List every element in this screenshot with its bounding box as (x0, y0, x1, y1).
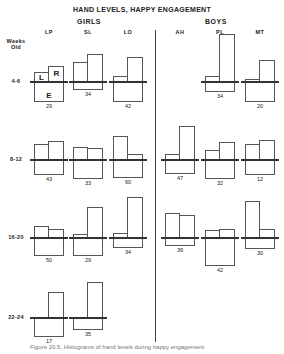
bar-below-baseline (34, 318, 64, 337)
bar-below-baseline (205, 160, 235, 179)
bar-left-hand (245, 144, 260, 160)
column-header-mt: MT (245, 29, 275, 35)
bar-left-hand (73, 147, 88, 160)
baseline (69, 159, 107, 160)
baseline (201, 81, 239, 82)
bar-below-baseline (165, 160, 195, 174)
baseline (241, 159, 279, 160)
bar-left-hand (73, 62, 88, 82)
bar-left-hand (34, 144, 49, 160)
bar-below-baseline (34, 160, 64, 175)
bar-below-baseline (245, 160, 275, 175)
legend-label-l: L (34, 73, 49, 82)
baseline (241, 81, 279, 82)
figure-caption: Figure 20.5. Histograms of hand levels d… (30, 344, 204, 350)
baseline (30, 81, 68, 82)
column-header-sl: SL (73, 29, 103, 35)
row-label-22-24: 22-24 (2, 314, 30, 320)
baseline (30, 159, 68, 160)
bar-left-hand (165, 213, 180, 238)
cell-count: 43 (34, 176, 64, 182)
cell-count: 29 (73, 257, 103, 263)
baseline (241, 237, 279, 238)
bar-below-baseline (245, 82, 275, 102)
bar-right-hand (219, 142, 235, 160)
baseline (161, 237, 199, 238)
bar-right-hand (87, 148, 103, 160)
column-header-lo: LO (113, 29, 143, 35)
plot-area: 29LRE34423420433360473212502934394230173… (0, 0, 284, 354)
baseline (201, 237, 239, 238)
baseline (109, 81, 147, 82)
cell-count: 50 (34, 257, 64, 263)
bar-right-hand (48, 292, 64, 318)
bar-below-baseline (113, 238, 143, 248)
cell-count: 29 (34, 103, 64, 109)
baseline (201, 159, 239, 160)
baseline (30, 317, 68, 318)
bar-right-hand (179, 215, 195, 238)
cell-count: 33 (73, 180, 103, 186)
cell-count: 12 (245, 176, 275, 182)
row-label-8-12: 8-12 (2, 156, 30, 162)
baseline (69, 81, 107, 82)
row-label-4-6: 4-6 (2, 78, 30, 84)
cell-count: 60 (113, 179, 143, 185)
baseline (69, 237, 107, 238)
bar-right-hand (127, 197, 143, 238)
baseline (69, 317, 107, 318)
bar-right-hand (219, 34, 235, 82)
bar-left-hand (113, 136, 128, 160)
bar-right-hand (259, 140, 275, 160)
bar-below-baseline (73, 160, 103, 179)
column-header-ah: AH (165, 29, 195, 35)
bar-below-baseline (113, 160, 143, 178)
bar-right-hand (87, 282, 103, 318)
baseline (109, 237, 147, 238)
bar-right-hand (87, 54, 103, 82)
cell-count: 42 (113, 103, 143, 109)
bar-right-hand (179, 126, 195, 160)
cell-count: 34 (113, 249, 143, 255)
bar-below-baseline (73, 318, 103, 330)
column-header-pl: PL (205, 29, 235, 35)
baseline (109, 159, 147, 160)
bar-below-baseline (205, 82, 235, 92)
bar-below-baseline (34, 238, 64, 256)
cell-count: 35 (73, 331, 103, 337)
cell-count: 32 (205, 180, 235, 186)
row-label-16-20: 16-20 (2, 234, 30, 240)
cell-count: 34 (205, 93, 235, 99)
bar-left-hand (245, 201, 260, 238)
legend-label-r: R (49, 69, 64, 78)
column-header-lp: LP (34, 29, 64, 35)
cell-count: 30 (245, 250, 275, 256)
baseline (30, 237, 68, 238)
cell-count: 39 (165, 247, 195, 253)
cell-count: 47 (165, 175, 195, 181)
bar-below-baseline (73, 82, 103, 90)
bar-below-baseline (113, 82, 143, 102)
cell-count: 34 (73, 91, 103, 97)
bar-right-hand (127, 57, 143, 82)
legend-label-e: E (34, 91, 64, 100)
baseline (161, 159, 199, 160)
bar-right-hand (259, 60, 275, 82)
cell-count: 42 (205, 267, 235, 273)
bar-right-hand (87, 207, 103, 238)
bar-below-baseline (165, 238, 195, 246)
cell-count: 20 (245, 103, 275, 109)
bar-below-baseline (73, 238, 103, 256)
bar-below-baseline (245, 238, 275, 249)
bar-below-baseline (205, 238, 235, 266)
cell-count: 17 (34, 338, 64, 344)
bar-right-hand (48, 141, 64, 160)
bar-left-hand (34, 226, 49, 238)
